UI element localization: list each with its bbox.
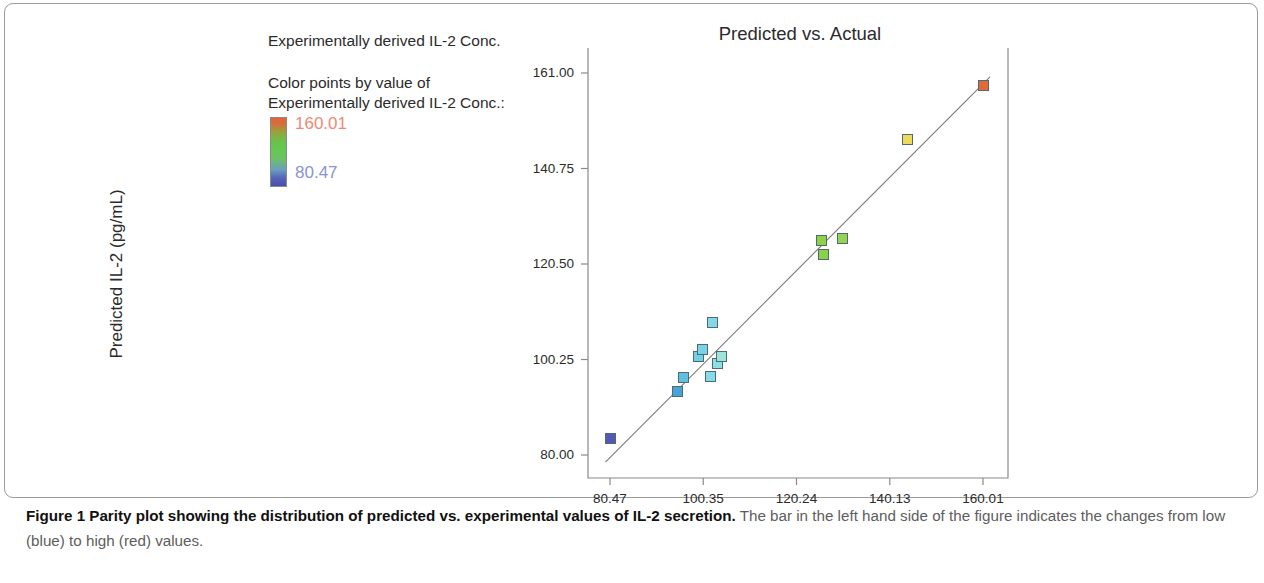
gradient-legend: 160.01 80.47 <box>268 117 518 189</box>
gradient-max-value: 160.01 <box>295 114 347 134</box>
color-legend: Experimentally derived IL-2 Conc. Color … <box>268 31 568 189</box>
gradient-min-value: 80.47 <box>295 163 338 183</box>
figure-border <box>4 3 1258 498</box>
caption-bold-text: Figure 1 Parity plot showing the distrib… <box>26 507 736 524</box>
figure-caption: Figure 1 Parity plot showing the distrib… <box>26 503 1240 553</box>
legend-header-label: Experimentally derived IL-2 Conc. <box>268 31 568 51</box>
gradient-bar <box>270 117 287 187</box>
legend-colorby-line-1: Color points by value of <box>268 73 568 93</box>
legend-colorby-line-2: Experimentally derived IL-2 Conc.: <box>268 93 568 113</box>
